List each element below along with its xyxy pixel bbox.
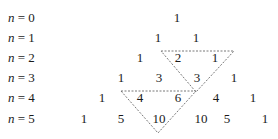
entry-n5-k3: 10 — [195, 112, 208, 126]
entry-n2-k0: 1 — [137, 51, 144, 65]
entry-n5-k2: 10 — [153, 112, 166, 126]
entry-n2-k1: 2 — [175, 51, 182, 65]
entry-n4-k1: 4 — [137, 91, 144, 105]
entry-n3-k2: 3 — [194, 71, 201, 85]
entry-n5-k5: 1 — [262, 112, 269, 126]
entry-n4-k3: 4 — [213, 91, 220, 105]
entry-n5-k1: 5 — [118, 112, 125, 126]
entry-n2-k2: 1 — [212, 51, 219, 65]
entry-n0-k0: 1 — [174, 11, 181, 25]
entry-n1-k0: 1 — [155, 31, 162, 45]
entry-n5-k4: 5 — [224, 112, 231, 126]
entry-n4-k2: 6 — [175, 91, 182, 105]
entry-n4-k0: 1 — [99, 91, 106, 105]
entry-n3-k1: 3 — [156, 71, 163, 85]
entry-n5-k0: 1 — [81, 112, 88, 126]
entry-n1-k1: 1 — [193, 31, 200, 45]
entry-n3-k0: 1 — [118, 71, 125, 85]
entry-n4-k4: 1 — [250, 91, 257, 105]
entry-n3-k3: 1 — [231, 71, 238, 85]
